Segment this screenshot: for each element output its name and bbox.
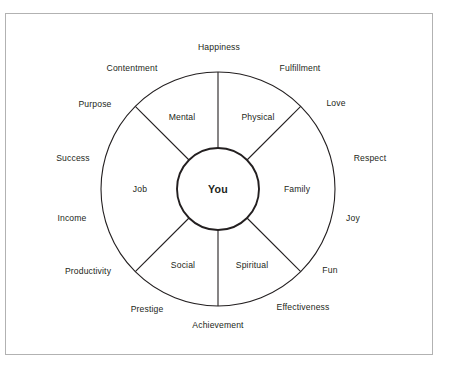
outer-label-respect: Respect <box>354 154 387 163</box>
outer-label-prestige: Prestige <box>131 305 164 314</box>
outer-label-productivity: Productivity <box>65 267 111 276</box>
outer-label-love: Love <box>326 99 345 108</box>
outer-label-purpose: Purpose <box>78 100 111 109</box>
sector-label-social: Social <box>171 261 195 270</box>
sector-label-job: Job <box>133 185 147 194</box>
sector-label-mental: Mental <box>169 113 196 122</box>
sector-label-family: Family <box>284 185 310 194</box>
outer-label-success: Success <box>56 154 90 163</box>
sector-label-physical: Physical <box>241 113 274 122</box>
diagram-canvas: You Physical Mental Job Social Spiritual… <box>0 0 450 365</box>
center-label: You <box>208 184 228 195</box>
outer-label-achievement: Achievement <box>192 321 243 330</box>
outer-label-happiness: Happiness <box>198 43 240 52</box>
outer-label-fun: Fun <box>322 266 337 275</box>
sector-label-spiritual: Spiritual <box>236 261 268 270</box>
outer-label-fulfillment: Fulfillment <box>280 64 321 73</box>
outer-label-effectiveness: Effectiveness <box>277 303 330 312</box>
outer-label-income: Income <box>57 214 86 223</box>
outer-label-joy: Joy <box>346 214 360 223</box>
outer-label-contentment: Contentment <box>107 64 158 73</box>
